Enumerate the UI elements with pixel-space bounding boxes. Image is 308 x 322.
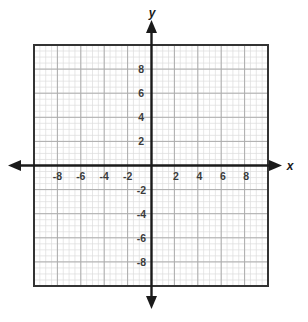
coordinate-plane: x y -8 -6 -4 -2 2 4 6 8 8 6 4 2 -2 -4 -6…	[0, 0, 308, 322]
y-tick-label: -8	[137, 256, 146, 268]
x-tick-label: -6	[76, 170, 85, 182]
y-tick-label: 4	[138, 111, 144, 123]
x-tick-label: 6	[220, 170, 226, 182]
y-axis-label: y	[148, 6, 157, 20]
y-tick-label: 6	[138, 87, 144, 99]
x-axis-label: x	[286, 159, 295, 173]
y-tick-label: -6	[137, 232, 146, 244]
x-tick-label: 2	[173, 170, 179, 182]
y-tick-label: -2	[137, 184, 146, 196]
x-tick-label: 8	[243, 170, 249, 182]
x-tick-label: -2	[123, 170, 132, 182]
x-tick-label: 4	[196, 170, 202, 182]
y-tick-label: -4	[137, 208, 146, 220]
y-tick-label: 2	[138, 135, 144, 147]
x-tick-label: -4	[100, 170, 109, 182]
y-tick-label: 8	[138, 63, 144, 75]
x-tick-label: -8	[53, 170, 62, 182]
